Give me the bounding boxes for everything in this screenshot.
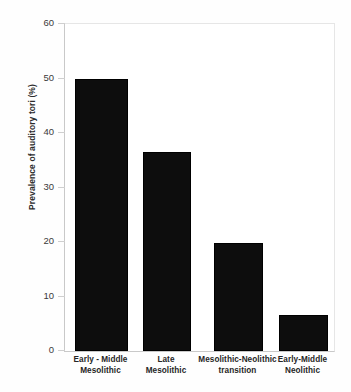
y-axis-tick-label: 10 (43, 290, 54, 301)
y-axis-tick: 50 (58, 78, 65, 79)
x-axis-label-line: Early-Middle (258, 355, 348, 366)
y-axis-title: Prevalence of auditory tori (%) (25, 67, 39, 227)
y-axis-tick-label: 50 (43, 72, 54, 83)
y-axis-tick-label: 40 (43, 126, 54, 137)
y-axis-tick: 40 (58, 132, 65, 133)
y-axis-tick: 0 (58, 350, 65, 351)
y-axis-tick: 30 (58, 187, 65, 188)
y-axis-tick: 10 (58, 296, 65, 297)
y-axis-tick-label: 30 (43, 181, 54, 192)
plot-area: 0102030405060 (64, 23, 335, 352)
y-axis-tick-label: 20 (43, 235, 54, 246)
bar-chart-figure: Prevalence of auditory tori (%) 01020304… (0, 0, 351, 392)
x-axis-label-line: Neolithic (258, 366, 348, 377)
y-axis-tick: 20 (58, 241, 65, 242)
y-axis-tick-label: 0 (49, 344, 54, 355)
bar[interactable] (143, 152, 191, 351)
y-axis-tick: 60 (58, 23, 65, 24)
bar[interactable] (279, 315, 328, 352)
y-axis-tick-label: 60 (43, 17, 54, 28)
bar[interactable] (214, 243, 263, 351)
x-axis-label: Early-MiddleNeolithic (258, 355, 348, 376)
bar[interactable] (75, 79, 128, 352)
